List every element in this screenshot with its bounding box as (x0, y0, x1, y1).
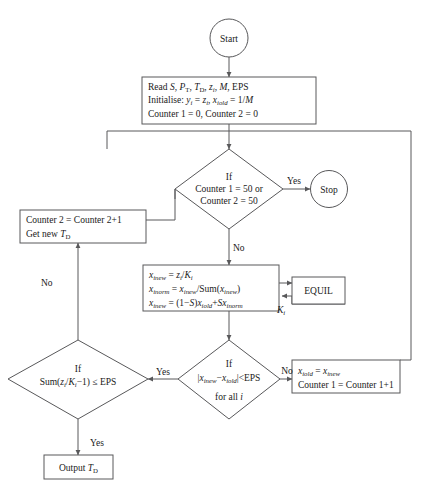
node-stop-label: Stop (320, 185, 338, 195)
node-start-label: Start (220, 34, 238, 44)
flowchart-diagram: Start Read S, PT, TD, zi, M, EPS Initial… (0, 0, 438, 496)
node-sum-check-line1: If (75, 364, 82, 374)
edge-label-equil-k: Ki (276, 305, 285, 316)
node-counter1-update-line2: Counter 1 = Counter 1+1 (298, 380, 394, 390)
node-converge-check-line1: If (226, 359, 233, 369)
edge-counter2-to-counter-check (146, 189, 175, 220)
node-counter-check-line3: Counter 2 = 50 (200, 196, 258, 206)
flowchart-canvas: Start Read S, PT, TD, zi, M, EPS Initial… (0, 0, 438, 496)
node-converge-check-line3: for all i (215, 392, 243, 402)
edge-label-counter-yes: Yes (287, 176, 301, 186)
node-output-label: Output TD (59, 463, 98, 474)
edge-label-converge-no: No (281, 366, 293, 376)
node-equil-label: EQUIL (304, 286, 333, 296)
node-counter2-update-line1: Counter 2 = Counter 2+1 (26, 215, 122, 225)
edge-label-converge-yes: Yes (156, 367, 170, 377)
edge-label-sum-yes: Yes (90, 438, 104, 448)
node-sum-check-line2: Sum(zi/Ki−1) ≤ EPS (40, 377, 117, 388)
node-counter2-update-line2: Get new TD (26, 229, 71, 240)
node-counter-check-line2: Counter 1 = 50 or (195, 184, 263, 194)
node-read-init-line1: Read S, PT, TD, zi, M, EPS (148, 82, 248, 93)
node-counter-check-line1: If (226, 172, 233, 182)
node-read-init-line2: Initialise: yi = zi, xiold = 1/M (148, 95, 254, 106)
node-read-init-line3: Counter 1 = 0, Counter 2 = 0 (148, 109, 258, 119)
edge-label-sum-no: No (41, 278, 53, 288)
edge-counter1-feedback-loop (107, 131, 411, 360)
edge-label-counter-no: No (233, 243, 245, 253)
